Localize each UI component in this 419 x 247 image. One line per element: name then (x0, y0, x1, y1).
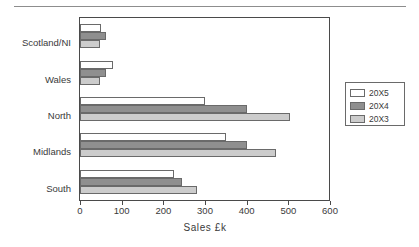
legend-item-0[interactable]: 20X5 (350, 87, 404, 99)
legend-item-1[interactable]: 20X4 (350, 100, 404, 112)
x-tick-label: 600 (322, 205, 338, 216)
x-axis-title: Sales £k (183, 222, 226, 233)
x-tick-label: 200 (155, 205, 171, 216)
legend-swatch-icon-20X3 (350, 115, 365, 123)
x-tick-label: 400 (239, 205, 255, 216)
legend-item-2[interactable]: 20X3 (350, 113, 404, 125)
legend-label-0: 20X5 (369, 88, 389, 98)
x-tick-label: 300 (197, 205, 213, 216)
x-tick-label: 100 (114, 205, 130, 216)
legend-label-1: 20X4 (369, 101, 389, 111)
legend-swatch-icon-20X4 (350, 102, 365, 110)
sales-by-region-bar-chart: Scotland/NIWalesNorthMidlandsSouth 01002… (0, 0, 419, 247)
x-tick-label: 500 (280, 205, 296, 216)
x-tick-label: 0 (77, 205, 82, 216)
legend-swatch-icon-20X5 (350, 89, 365, 97)
chart-legend: 20X5 20X4 20X3 (345, 82, 405, 126)
legend-label-2: 20X3 (369, 114, 389, 124)
